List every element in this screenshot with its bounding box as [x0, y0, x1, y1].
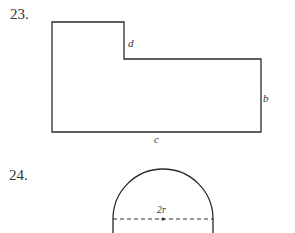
label-2r: 2r — [157, 204, 166, 215]
figures-canvas: d b c 2r — [0, 0, 295, 233]
figure-23-l-shape: d b c — [52, 22, 269, 145]
label-c: c — [154, 133, 159, 145]
label-b: b — [263, 92, 269, 104]
figure-24-semicircle-rect: 2r — [113, 169, 213, 233]
label-d: d — [128, 37, 134, 49]
center-point — [161, 217, 164, 220]
